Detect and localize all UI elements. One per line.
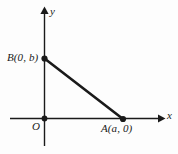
point-label-a: A(a, 0) bbox=[101, 123, 132, 134]
x-axis-arrowhead-icon bbox=[158, 114, 166, 122]
y-axis-arrowhead-icon bbox=[40, 7, 48, 15]
y-axis-label: y bbox=[50, 6, 55, 17]
segment-hypotenuse bbox=[45, 59, 124, 120]
coordinate-plane-figure: B(0, b) A(a, 0) O x y bbox=[0, 0, 178, 154]
y-axis bbox=[40, 7, 48, 147]
origin-label: O bbox=[32, 121, 40, 132]
figure-canvas bbox=[0, 0, 178, 154]
vertex-o-dot bbox=[42, 116, 48, 122]
vertex-b-dot bbox=[41, 55, 47, 61]
point-label-b: B(0, b) bbox=[7, 52, 38, 63]
x-axis-label: x bbox=[167, 110, 172, 121]
